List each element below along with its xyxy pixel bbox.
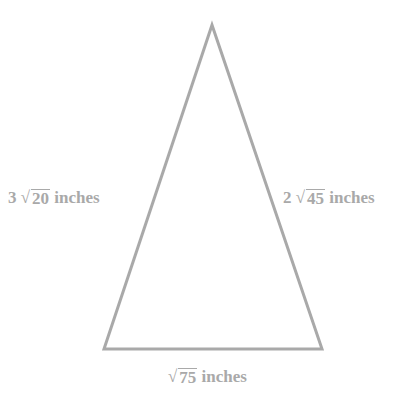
bottom-side-label: √75 inches bbox=[168, 367, 247, 387]
bottom-unit: inches bbox=[202, 367, 247, 386]
radical-sign-icon: √ bbox=[168, 367, 177, 387]
right-unit: inches bbox=[329, 188, 374, 207]
radical-sign-icon: √ bbox=[21, 188, 30, 208]
right-radicand: 45 bbox=[306, 189, 325, 208]
radical-sign-icon: √ bbox=[296, 188, 305, 208]
bottom-radical: √75 bbox=[168, 367, 197, 387]
triangle-diagram: 3 √20 inches 2 √45 inches √75 inches bbox=[0, 0, 419, 408]
left-radical: √20 bbox=[21, 188, 50, 208]
left-unit: inches bbox=[54, 188, 99, 207]
right-radical: √45 bbox=[296, 188, 325, 208]
bottom-radicand: 75 bbox=[178, 368, 197, 387]
left-coefficient: 3 bbox=[8, 188, 17, 207]
right-coefficient: 2 bbox=[283, 188, 292, 207]
left-side-label: 3 √20 inches bbox=[8, 188, 100, 208]
right-side-label: 2 √45 inches bbox=[283, 188, 375, 208]
left-radicand: 20 bbox=[31, 189, 50, 208]
